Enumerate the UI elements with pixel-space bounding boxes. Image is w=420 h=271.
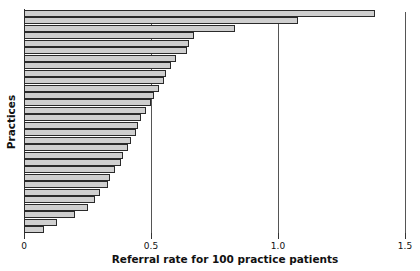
bar-p29 — [24, 219, 57, 226]
x-tick — [24, 233, 25, 239]
bar-p16 — [24, 122, 138, 129]
bar-p10 — [24, 77, 164, 84]
bar-p25 — [24, 189, 100, 196]
bar-p28 — [24, 211, 75, 218]
bar-p2 — [24, 17, 298, 24]
gridline — [405, 12, 406, 233]
x-tick — [151, 233, 152, 239]
bar-p20 — [24, 152, 123, 159]
bar-p1 — [24, 10, 375, 17]
x-tick — [278, 233, 279, 239]
bar-p26 — [24, 196, 95, 203]
bar-p12 — [24, 92, 154, 99]
bar-p13 — [24, 99, 151, 106]
bar-p8 — [24, 62, 171, 69]
x-tick-label: 1.5 — [398, 241, 412, 251]
x-axis-label: Referral rate for 100 practice patients — [0, 253, 420, 265]
x-tick-label: 0 — [21, 241, 27, 251]
bar-p27 — [24, 204, 88, 211]
bar-p9 — [24, 70, 166, 77]
bar-p11 — [24, 85, 159, 92]
bar-p6 — [24, 47, 187, 54]
bar-p19 — [24, 144, 128, 151]
bar-p5 — [24, 40, 189, 47]
bar-p23 — [24, 174, 110, 181]
bar-p14 — [24, 107, 146, 114]
bar-p30 — [24, 226, 44, 233]
bar-p3 — [24, 25, 235, 32]
bar-p7 — [24, 55, 176, 62]
x-tick — [405, 233, 406, 239]
x-tick-label: 0.5 — [144, 241, 158, 251]
bar-p24 — [24, 181, 108, 188]
referral-rate-bar-chart: 00.51.01.5 Practices Referral rate for 1… — [0, 0, 420, 271]
bar-p4 — [24, 32, 194, 39]
gridline — [278, 15, 279, 233]
bar-p18 — [24, 137, 131, 144]
x-tick-label: 1.0 — [271, 241, 285, 251]
bar-p15 — [24, 114, 141, 121]
bar-p17 — [24, 129, 136, 136]
bar-p21 — [24, 159, 121, 166]
y-axis-label: Practices — [5, 95, 17, 149]
bar-p22 — [24, 166, 115, 173]
